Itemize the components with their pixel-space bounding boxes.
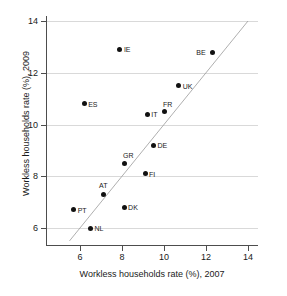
- data-point-label-be: BE: [196, 49, 205, 56]
- data-point-label-pt: PT: [78, 207, 87, 214]
- data-point-label-gr: GR: [123, 152, 134, 159]
- x-axis-title: Workless households rate (%), 2007: [46, 269, 258, 280]
- data-point-uk: [176, 83, 181, 88]
- x-tick-label-12: 12: [195, 253, 217, 262]
- x-tick-12: [206, 246, 207, 251]
- data-point-fi: [143, 171, 148, 176]
- data-point-dk: [122, 205, 127, 210]
- x-tick-6: [80, 246, 81, 251]
- data-point-label-uk: UK: [183, 83, 193, 90]
- data-point-label-de: DE: [158, 142, 168, 149]
- data-point-label-fi: FI: [149, 171, 155, 178]
- data-point-label-es: ES: [88, 101, 97, 108]
- data-point-at: [101, 192, 106, 197]
- data-point-fr: [162, 109, 167, 114]
- data-point-label-fr: FR: [163, 101, 172, 108]
- x-tick-label-8: 8: [111, 253, 133, 262]
- data-point-label-at: AT: [99, 182, 107, 189]
- data-point-pt: [71, 207, 76, 212]
- data-point-be: [210, 50, 215, 55]
- x-axis-line: [46, 245, 258, 246]
- data-point-label-dk: DK: [128, 204, 138, 211]
- x-tick-label-6: 6: [69, 253, 91, 262]
- plot-area: IEBEUKESFRITDEGRFIATDKPTNL: [46, 16, 258, 245]
- data-point-de: [151, 143, 156, 148]
- scatter-chart-figure: 68101214 68101214 IEBEUKESFRITDEGRFIATDK…: [0, 0, 287, 296]
- x-tick-10: [164, 246, 165, 251]
- x-tick-label-14: 14: [237, 253, 259, 262]
- data-point-label-nl: NL: [95, 225, 104, 232]
- data-point-it: [145, 112, 150, 117]
- x-tick-14: [248, 246, 249, 251]
- data-point-label-it: IT: [151, 111, 157, 118]
- data-point-nl: [88, 226, 93, 231]
- data-point-ie: [117, 47, 122, 52]
- x-tick-label-10: 10: [153, 253, 175, 262]
- x-tick-8: [122, 246, 123, 251]
- y-axis-title: Workless households rate (%), 2009: [21, 9, 32, 238]
- data-point-gr: [122, 161, 127, 166]
- data-point-label-ie: IE: [124, 46, 131, 53]
- data-point-es: [82, 101, 87, 106]
